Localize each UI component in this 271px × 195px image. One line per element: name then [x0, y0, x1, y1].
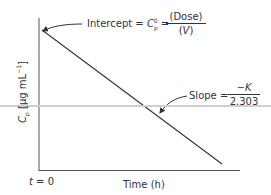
k-var: K: [245, 82, 252, 93]
origin-eq: = 0: [33, 176, 54, 187]
origin-label: t = 0: [29, 176, 54, 187]
x-axis-label: Time (h): [123, 179, 165, 190]
y-label-exp: −1: [15, 65, 22, 74]
y-label-c: C: [17, 116, 28, 123]
y-label-sub: p: [23, 112, 30, 116]
y-label-close: ]: [17, 61, 28, 65]
cp-symbol: C: [147, 18, 154, 29]
intercept-label: Intercept = Cp0 =: [87, 18, 169, 29]
pharmacokinetic-plot: Intercept = Cp0 = (Dose) (V) Slope = −K …: [0, 0, 271, 195]
intercept-text: Intercept =: [87, 18, 147, 29]
slope-numerator: −K: [228, 82, 260, 94]
slope-label: Slope =: [189, 90, 228, 101]
y-label-units: [µg mL: [17, 74, 28, 112]
intercept-fraction: (Dose) (V): [166, 11, 206, 36]
paren-close: ): [189, 25, 193, 36]
slope-fraction: −K 2.303: [228, 82, 260, 107]
slope-denominator: 2.303: [228, 95, 260, 107]
y-axis-label: Cp [µg mL−1]: [17, 61, 28, 123]
intercept-arrow: [43, 24, 82, 31]
dose-numerator: (Dose): [166, 11, 206, 23]
minus-sign: −: [237, 82, 245, 93]
volume-denominator: (V): [166, 24, 206, 36]
